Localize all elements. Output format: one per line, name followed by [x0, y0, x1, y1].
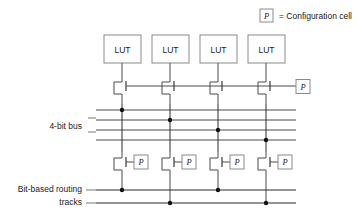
- legend-config-cell-symbol: P: [263, 11, 269, 21]
- upper-transistor-channel-4: [258, 76, 266, 104]
- figure-canvas: P = Configuration cell LUT LUT LUT LUT: [0, 0, 362, 215]
- upper-pass-transistor-2[interactable]: [162, 76, 174, 104]
- upper-transistor-channel-2: [162, 76, 170, 104]
- lower-transistor-channel-1: [114, 152, 122, 190]
- upper-pass-transistor-3[interactable]: [210, 76, 222, 104]
- upper-transistor-channel-3: [210, 76, 218, 104]
- bus-junction-dot-4: [264, 138, 268, 142]
- lower-config-cell-symbol-2: P: [185, 157, 191, 167]
- legend: P = Configuration cell: [260, 9, 352, 22]
- routing-track-dot-4: [264, 201, 268, 205]
- routing-track-dot-1: [120, 188, 124, 192]
- lut-row: LUT LUT LUT LUT: [104, 35, 285, 63]
- bus-label: 4-bit bus: [49, 121, 82, 131]
- fpga-routing-diagram: P = Configuration cell LUT LUT LUT LUT: [0, 0, 362, 215]
- lut-output-wires: [122, 63, 266, 76]
- routing-tracks-label-line1: Bit-based routing: [18, 184, 83, 194]
- upper-config-cell[interactable]: P: [296, 80, 310, 94]
- bus-junction-dots: [120, 108, 268, 142]
- upper-transistor-channel-1: [114, 76, 122, 104]
- lower-transistor-channel-2: [162, 152, 170, 203]
- upper-pass-transistor-1[interactable]: [114, 76, 126, 104]
- lower-pass-transistor-3[interactable]: P: [210, 152, 244, 190]
- lut-label-1: LUT: [114, 45, 130, 55]
- lut-label-3: LUT: [210, 45, 226, 55]
- lower-config-cell-symbol-3: P: [233, 157, 239, 167]
- lower-pass-transistor-2[interactable]: P: [162, 152, 196, 203]
- routing-tracks-label-group: Bit-based routing tracks: [18, 184, 96, 207]
- upper-pass-transistor-4[interactable]: [258, 76, 270, 104]
- bus-junction-dot-2: [168, 118, 172, 122]
- legend-description: = Configuration cell: [279, 11, 352, 21]
- lower-config-cell-symbol-4: P: [281, 157, 287, 167]
- routing-track-dot-3: [216, 188, 220, 192]
- bus-junction-dot-1: [120, 108, 124, 112]
- lower-pass-transistor-4[interactable]: P: [258, 152, 292, 203]
- lower-config-cell-symbol-1: P: [137, 157, 143, 167]
- bus-label-group: 4-bit bus: [49, 118, 96, 132]
- upper-config-cell-symbol: P: [299, 82, 305, 92]
- column-verticals-bus: [122, 104, 266, 152]
- lower-pass-transistor-1[interactable]: P: [114, 152, 148, 190]
- routing-tracks-label-line2: tracks: [59, 197, 82, 207]
- routing-track-dot-2: [168, 201, 172, 205]
- lower-transistor-channel-3: [210, 152, 218, 190]
- lut-label-4: LUT: [258, 45, 274, 55]
- lower-transistor-channel-4: [258, 152, 266, 203]
- bus-junction-dot-3: [216, 128, 220, 132]
- lut-label-2: LUT: [162, 45, 178, 55]
